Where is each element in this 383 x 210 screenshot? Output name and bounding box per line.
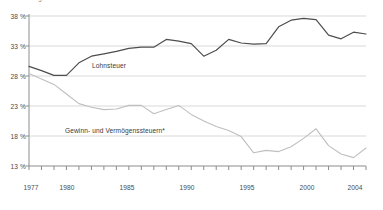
- y-axis-label-23: 23 %: [2, 103, 26, 110]
- y-axis-label-13: 13 %: [2, 163, 26, 170]
- x-axis-label-1980: 1980: [52, 184, 82, 191]
- x-axis-label-2004: 2004: [340, 184, 370, 191]
- series-label-lohnsteuer: Lohnsteuer: [92, 62, 126, 69]
- chart-plot-area: [0, 0, 383, 210]
- series-line-gewinn-vermoegenssteuern: [29, 74, 366, 158]
- y-axis-label-38: 38 %: [2, 13, 26, 20]
- x-axis-label-2000: 2000: [292, 184, 322, 191]
- tax-share-line-chart: Anteil am gesamten Steueraufkommen in Pr…: [0, 0, 383, 210]
- x-axis-label-1977: 1977: [16, 184, 46, 191]
- x-axis-label-1990: 1990: [172, 184, 202, 191]
- y-axis-label-28: 28 %: [2, 73, 26, 80]
- y-axis-label-33: 33 %: [2, 43, 26, 50]
- y-axis-label-18: 18 %: [2, 133, 26, 140]
- x-axis-label-1995: 1995: [232, 184, 262, 191]
- series-line-lohnsteuer: [29, 18, 366, 75]
- x-axis-label-1985: 1985: [112, 184, 142, 191]
- series-label-gewinn-vermoegenssteuern: Gewinn- und Vermögenssteuern*: [65, 127, 165, 134]
